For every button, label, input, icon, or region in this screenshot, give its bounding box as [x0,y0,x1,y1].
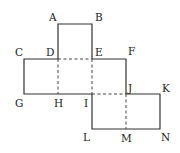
label-J: J [127,82,132,94]
label-L: L [83,131,90,143]
label-K: K [162,82,170,94]
outline-top-square [58,24,92,59]
label-F: F [128,45,135,57]
label-I: I [84,97,88,109]
label-N: N [161,131,170,143]
label-A: A [48,11,57,23]
label-D: D [46,46,54,58]
label-C: C [15,46,23,58]
label-B: B [95,11,103,23]
label-G: G [15,97,23,109]
label-H: H [54,97,63,109]
label-E: E [95,46,103,58]
cube-net-diagram: A B C D E F G H I J K L M N [0,0,180,153]
label-M: M [121,132,132,144]
